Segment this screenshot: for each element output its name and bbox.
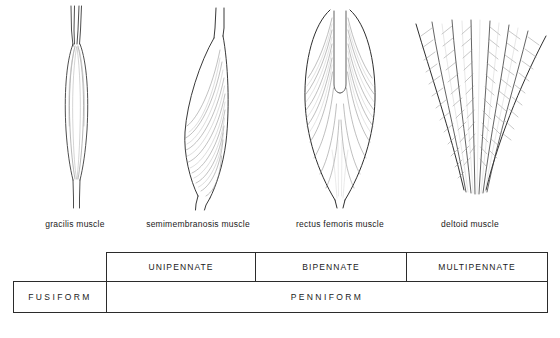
- table-cell-multipennate-label: MULTIPENNATE: [438, 262, 516, 272]
- figure-semimembranosis: [140, 0, 256, 212]
- multipennate-muscle-icon: [408, 0, 556, 212]
- table-cell-fusiform: FUSIFORM: [13, 281, 107, 313]
- table-cell-penniform-label: PENNIFORM: [291, 292, 364, 302]
- figure-deltoid: [408, 0, 556, 212]
- unipennate-muscle-icon: [140, 0, 256, 212]
- bipennate-muscle-icon: [280, 0, 400, 212]
- figure-gracilis: [22, 0, 128, 212]
- figure-label-rectus-femoris: rectus femoris muscle: [278, 219, 402, 229]
- table-cell-multipennate: MULTIPENNATE: [406, 252, 548, 282]
- table-cell-bipennate-label: BIPENNATE: [302, 262, 359, 272]
- figure-label-semimembranosis: semimembranosis muscle: [136, 219, 260, 229]
- table-cell-unipennate-label: UNIPENNATE: [148, 262, 213, 272]
- table-cell-penniform: PENNIFORM: [106, 281, 548, 313]
- table-cell-fusiform-label: FUSIFORM: [28, 292, 92, 302]
- figure-label-gracilis: gracilis muscle: [22, 219, 128, 229]
- table-cell-unipennate: UNIPENNATE: [106, 252, 256, 282]
- fusiform-muscle-icon: [22, 0, 128, 212]
- muscle-architecture-diagram: gracilis muscle semimembranosis muscle r…: [0, 0, 560, 338]
- figure-rectus-femoris: [280, 0, 400, 212]
- figure-label-deltoid: deltoid muscle: [406, 219, 534, 229]
- table-cell-bipennate: BIPENNATE: [255, 252, 407, 282]
